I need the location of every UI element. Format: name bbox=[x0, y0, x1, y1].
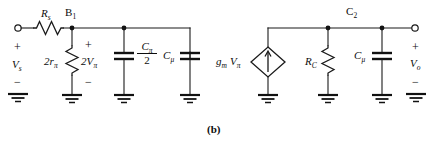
label-output-minus: − bbox=[412, 76, 419, 88]
ground-symbol-rpi-icon bbox=[62, 95, 82, 103]
label-source-voltage: Vs bbox=[12, 59, 22, 70]
resistor-rs-icon bbox=[33, 22, 64, 35]
label-node-b1: B1 bbox=[65, 7, 76, 18]
label-resistor-2rpi: 2rπ bbox=[44, 56, 58, 67]
schematic-canvas bbox=[0, 0, 436, 141]
label-dependent-source: gm Vπ bbox=[216, 56, 241, 67]
output-terminal-icon[interactable] bbox=[412, 25, 418, 31]
ground-symbol-cmu-right-icon bbox=[372, 95, 392, 103]
label-vpi-plus: + bbox=[85, 39, 92, 51]
input-terminal-icon[interactable] bbox=[15, 25, 21, 31]
label-resistor-rc: RC bbox=[305, 56, 317, 67]
label-source-minus: − bbox=[14, 76, 21, 88]
label-cap-cpi-numerator: Cπ bbox=[136, 41, 158, 53]
resistor-2rpi-icon bbox=[66, 45, 78, 76]
figure-caption: (b) bbox=[207, 124, 220, 135]
resistor-rc-icon bbox=[322, 45, 334, 76]
label-cap-cpi-over-2: Cπ 2 bbox=[136, 41, 158, 66]
label-voltage-2vpi: 2Vπ bbox=[81, 56, 97, 67]
ground-symbol-cpi-icon bbox=[114, 95, 134, 103]
ground-symbol-rc-icon bbox=[318, 95, 338, 103]
label-source-plus: + bbox=[14, 41, 21, 53]
schematic-figure: Rs B1 + Vs − 2rπ 2Vπ + − Cπ 2 Cμ gm Vπ R… bbox=[0, 0, 436, 141]
label-output-voltage: Vo bbox=[410, 58, 421, 69]
label-cap-cmu-left: Cμ bbox=[163, 50, 174, 61]
label-node-c2: C2 bbox=[346, 6, 357, 17]
label-resistor-rs: Rs bbox=[41, 8, 51, 19]
ground-symbol-source-icon bbox=[8, 94, 28, 102]
label-output-plus: + bbox=[412, 41, 419, 53]
label-cap-cmu-right: Cμ bbox=[354, 50, 365, 61]
ground-symbol-cmu-left-icon bbox=[180, 95, 200, 103]
ground-symbol-output-icon bbox=[406, 94, 426, 102]
ground-symbol-source-right-icon bbox=[258, 95, 278, 103]
label-vpi-minus: − bbox=[85, 76, 92, 88]
label-cap-cpi-denominator: 2 bbox=[136, 54, 158, 66]
